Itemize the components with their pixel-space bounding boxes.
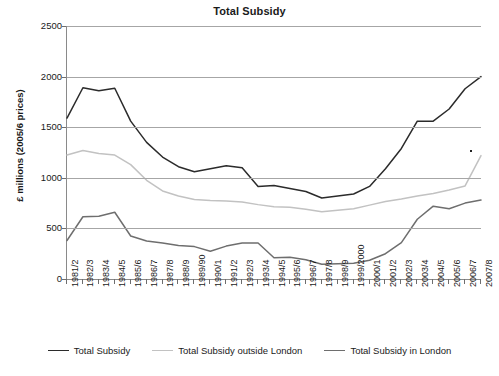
x-tick-label: 1996/7 [308, 259, 318, 287]
x-tick-mark [305, 279, 306, 284]
legend-label: Total Subsidy outside London [178, 345, 302, 356]
x-tick-label: 1992/3 [245, 259, 255, 287]
x-tick-label: 1981/2 [70, 259, 80, 287]
x-tick-mark [177, 279, 178, 284]
x-tick-mark [225, 279, 226, 284]
y-tick-label: 500 [6, 223, 62, 233]
x-tick-label: 1982/3 [85, 259, 95, 287]
x-tick-mark [146, 279, 147, 284]
x-tick-mark [369, 279, 370, 284]
x-tick-mark [337, 279, 338, 284]
gridline [67, 127, 481, 128]
x-tick-mark [321, 279, 322, 284]
x-tick-label: 1988/9 [181, 259, 191, 287]
x-tick-label: 1991/2 [229, 259, 239, 287]
x-tick-label: 2005/6 [452, 259, 462, 287]
gridline [67, 228, 481, 229]
y-tick-label: 2000 [6, 72, 62, 82]
y-tick-label: 1500 [6, 122, 62, 132]
y-tick-label: 1000 [6, 173, 62, 183]
x-tick-mark [193, 279, 194, 284]
legend-swatch [48, 350, 69, 351]
y-tick-label: 2500 [6, 21, 62, 31]
series-lines [67, 26, 481, 279]
legend-item[interactable]: Total Subsidy in London [324, 345, 451, 356]
x-tick-label: 1999/2000 [356, 244, 366, 287]
x-tick-mark [162, 279, 163, 284]
x-tick-mark [448, 279, 449, 284]
x-tick-label: 2004/5 [436, 259, 446, 287]
gridline [67, 77, 481, 78]
x-tick-mark [130, 279, 131, 284]
x-tick-label: 1986/7 [149, 259, 159, 287]
x-tick-label: 2000/1 [372, 259, 382, 287]
legend-swatch [152, 350, 173, 351]
x-tick-mark [209, 279, 210, 284]
x-tick-label: 1983/4 [101, 259, 111, 287]
x-tick-mark [400, 279, 401, 284]
x-tick-mark [432, 279, 433, 284]
x-tick-label: 1984/5 [117, 259, 127, 287]
speck-artifact [470, 150, 472, 152]
x-tick-mark [82, 279, 83, 284]
x-tick-mark [353, 279, 354, 284]
x-tick-label: 2002/3 [404, 259, 414, 287]
chart-figure: Total Subsidy £ millions (2005/6 prices)… [0, 0, 499, 376]
chart-title: Total Subsidy [0, 5, 499, 17]
x-tick-label: 2001/2 [388, 259, 398, 287]
x-tick-label: 1993/4 [261, 259, 271, 287]
legend-swatch [324, 350, 345, 351]
x-tick-mark [480, 279, 481, 284]
x-tick-mark [273, 279, 274, 284]
x-tick-mark [98, 279, 99, 284]
x-tick-mark [114, 279, 115, 284]
x-tick-label: 1994/5 [277, 259, 287, 287]
legend-label: Total Subsidy in London [350, 345, 451, 356]
x-tick-label: 1987/8 [165, 259, 175, 287]
series-line [67, 77, 481, 198]
x-tick-label: 1989/90 [197, 254, 207, 287]
series-line [67, 150, 481, 211]
x-tick-label: 2006/7 [468, 259, 478, 287]
x-tick-label: 2003/4 [420, 259, 430, 287]
x-tick-mark [241, 279, 242, 284]
x-tick-label: 2007/8 [484, 259, 494, 287]
chart-legend: Total SubsidyTotal Subsidy outside Londo… [0, 345, 499, 356]
x-tick-mark [416, 279, 417, 284]
plot-area [66, 26, 481, 279]
legend-item[interactable]: Total Subsidy [48, 345, 131, 356]
y-axis-tick-labels: 05001000150020002500 [4, 26, 62, 279]
x-tick-mark [464, 279, 465, 284]
x-tick-mark [289, 279, 290, 284]
x-tick-label: 1997/8 [324, 259, 334, 287]
y-tick-label: 0 [6, 274, 62, 284]
x-tick-label: 1998/9 [340, 259, 350, 287]
legend-item[interactable]: Total Subsidy outside London [152, 345, 302, 356]
x-tick-mark [257, 279, 258, 284]
series-line [67, 200, 481, 264]
legend-label: Total Subsidy [74, 345, 131, 356]
x-tick-label: 1995/6 [292, 259, 302, 287]
x-tick-mark [66, 279, 67, 284]
gridline [67, 178, 481, 179]
x-tick-label: 1985/6 [133, 259, 143, 287]
gridline [67, 26, 481, 27]
x-tick-label: 1990/1 [213, 259, 223, 287]
x-tick-mark [384, 279, 385, 284]
